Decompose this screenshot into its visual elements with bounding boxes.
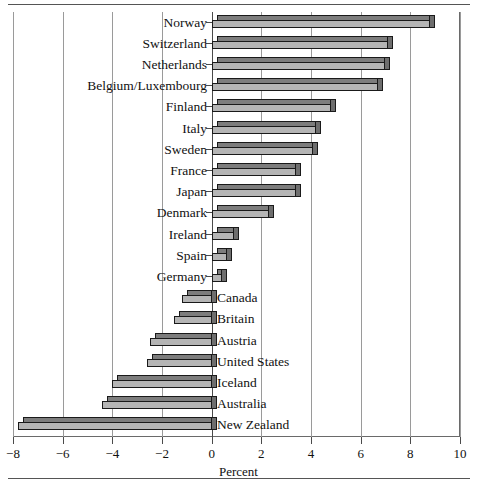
- bar-side-face: [387, 36, 393, 49]
- bar-side-face: [295, 184, 301, 197]
- bar-front-face: [147, 359, 212, 367]
- bar-row: New Zealand: [0, 415, 477, 437]
- bar-row: Norway: [0, 13, 477, 35]
- bar-front-face: [212, 83, 378, 91]
- category-label: France: [170, 164, 207, 178]
- bar: [147, 354, 212, 367]
- bar-row: Finland: [0, 97, 477, 119]
- bar-front-face: [212, 20, 431, 28]
- bar-row: Canada: [0, 288, 477, 310]
- bar-row: Denmark: [0, 203, 477, 225]
- bar-row: Sweden: [0, 140, 477, 162]
- bar: [102, 396, 211, 409]
- bar-front-face: [212, 210, 269, 218]
- bar: [212, 142, 314, 155]
- category-label: Spain: [176, 249, 207, 263]
- bar: [212, 227, 234, 240]
- bar: [112, 375, 211, 388]
- bar: [174, 311, 211, 324]
- bar-side-face: [268, 205, 274, 218]
- bar: [212, 184, 296, 197]
- bar-side-face: [211, 311, 217, 324]
- category-label: Austria: [217, 334, 257, 348]
- bar-front-face: [212, 62, 386, 70]
- category-label: Belgium/Luxembourg: [87, 79, 207, 93]
- bar: [212, 121, 316, 134]
- bar-front-face: [182, 295, 212, 303]
- bar-side-face: [312, 142, 318, 155]
- bar-row: Netherlands: [0, 55, 477, 77]
- bar-side-face: [315, 121, 321, 134]
- category-label: Iceland: [217, 376, 257, 390]
- category-label: Switzerland: [143, 37, 207, 51]
- bar: [212, 15, 431, 28]
- bar-row: Ireland: [0, 225, 477, 247]
- bar-row: Japan: [0, 182, 477, 204]
- bar-front-face: [212, 147, 314, 155]
- bar-side-face: [233, 227, 239, 240]
- category-label: Finland: [166, 100, 207, 114]
- bar-front-face: [212, 168, 296, 176]
- bar-row: Belgium/Luxembourg: [0, 76, 477, 98]
- bar: [212, 57, 386, 70]
- bar-side-face: [429, 15, 435, 28]
- bar-side-face: [211, 333, 217, 346]
- bar-front-face: [212, 126, 316, 134]
- category-label: Germany: [157, 270, 207, 284]
- bar-row: Austria: [0, 331, 477, 353]
- bar-side-face: [211, 354, 217, 367]
- category-label: Italy: [182, 122, 207, 136]
- bar: [212, 205, 269, 218]
- bar-side-face: [226, 248, 232, 261]
- bar-side-face: [295, 163, 301, 176]
- bar: [212, 248, 227, 261]
- bar-side-face: [377, 78, 383, 91]
- bar-row: Australia: [0, 394, 477, 416]
- bar-front-face: [212, 41, 388, 49]
- bar-side-face: [221, 269, 227, 282]
- bar-front-face: [102, 401, 211, 409]
- category-label: Japan: [176, 185, 207, 199]
- bar: [212, 163, 296, 176]
- bar: [150, 333, 212, 346]
- bar-row: Switzerland: [0, 34, 477, 56]
- bar-side-face: [211, 396, 217, 409]
- bar: [212, 78, 378, 91]
- bar: [212, 99, 331, 112]
- category-label: Ireland: [169, 228, 207, 242]
- bar-side-face: [211, 417, 217, 430]
- bar-row: Spain: [0, 246, 477, 268]
- bar-row: Iceland: [0, 373, 477, 395]
- bar: [212, 269, 222, 282]
- bar-rows: NorwaySwitzerlandNetherlandsBelgium/Luxe…: [0, 0, 477, 484]
- category-label: Australia: [217, 397, 267, 411]
- category-label: New Zealand: [217, 418, 289, 432]
- category-label: Netherlands: [142, 58, 207, 72]
- bar: [18, 417, 212, 430]
- bar-side-face: [330, 99, 336, 112]
- bar-row: Germany: [0, 267, 477, 289]
- bar-side-face: [211, 375, 217, 388]
- bar-front-face: [18, 422, 212, 430]
- category-label: Denmark: [157, 206, 207, 220]
- bar-front-face: [174, 316, 211, 324]
- bar-front-face: [212, 232, 234, 240]
- category-label: Britain: [217, 312, 255, 326]
- bar: [182, 290, 212, 303]
- category-label: Norway: [164, 16, 208, 30]
- bar-front-face: [212, 253, 227, 261]
- bar-side-face: [384, 57, 390, 70]
- category-label: Canada: [217, 291, 257, 305]
- bar-front-face: [212, 104, 331, 112]
- bar-front-face: [112, 380, 211, 388]
- bar-row: France: [0, 161, 477, 183]
- chart-figure: −8−6−4−20246810 NorwaySwitzerlandNetherl…: [0, 0, 477, 484]
- bar-front-face: [212, 189, 296, 197]
- category-label: United States: [217, 355, 289, 369]
- bar-front-face: [150, 338, 212, 346]
- bar-side-face: [211, 290, 217, 303]
- bar-row: United States: [0, 352, 477, 374]
- bar-row: Britain: [0, 309, 477, 331]
- category-label: Sweden: [164, 143, 207, 157]
- x-axis-title: Percent: [0, 464, 477, 480]
